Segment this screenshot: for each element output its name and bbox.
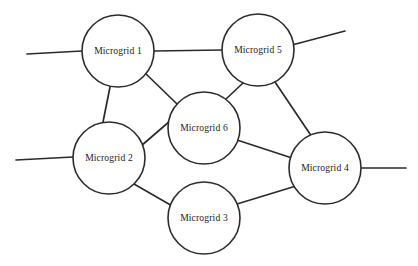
node-mg3[interactable]: Microgrid 3 [168,182,240,254]
node-label-mg5: Microgrid 5 [234,44,282,55]
microgrid-network-diagram: Microgrid 1Microgrid 2Microgrid 3Microgr… [0,0,418,266]
e-mg5-mg6 [226,83,243,99]
stub-mg1-left [27,51,82,54]
e-mg3-mg4 [237,186,296,204]
node-label-mg2: Microgrid 2 [85,152,133,163]
node-mg1[interactable]: Microgrid 1 [82,15,154,87]
stub-mg2-left [16,157,73,160]
network-graph-canvas: Microgrid 1Microgrid 2Microgrid 3Microgr… [0,0,418,266]
node-mg4[interactable]: Microgrid 4 [289,132,361,204]
e-mg2-mg6 [141,121,170,146]
e-mg1-mg5 [154,50,222,51]
node-label-mg3: Microgrid 3 [180,212,228,223]
e-mg1-mg2 [103,87,110,122]
stub-mg5-upper-right [292,31,345,45]
node-label-mg6: Microgrid 6 [180,122,228,133]
e-mg1-mg6 [144,72,177,104]
node-label-mg1: Microgrid 1 [94,45,142,56]
node-mg2[interactable]: Microgrid 2 [73,122,145,194]
e-mg5-mg4 [275,82,310,134]
node-mg5[interactable]: Microgrid 5 [222,14,294,86]
e-mg6-mg4 [237,140,292,158]
e-mg2-mg3 [134,184,174,207]
node-label-mg4: Microgrid 4 [301,162,349,173]
node-mg6[interactable]: Microgrid 6 [168,92,240,164]
